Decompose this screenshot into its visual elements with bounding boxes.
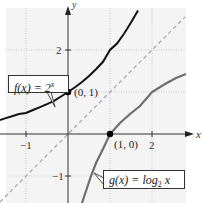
tick-label-x-neg1: −1 (20, 139, 32, 151)
tick-label-x-2: 2 (149, 139, 155, 151)
axis-label-x: x (195, 128, 201, 140)
x-axis-arrow-icon (185, 131, 194, 137)
label-f-superscript: x (51, 80, 55, 89)
point-label-0-1: (0, 1) (74, 86, 98, 98)
point-1-0 (107, 131, 113, 137)
label-f-main: f(x) = 2 (14, 81, 51, 95)
label-g-main: g(x) = log (109, 173, 158, 187)
tick-label-y-neg1: −1 (52, 170, 64, 182)
label-g-tail: x (162, 173, 170, 187)
axis-label-y: y (71, 0, 77, 10)
point-label-1-0: (1, 0) (114, 138, 138, 150)
label-g-function: g(x) = log2 x (103, 170, 185, 189)
tick-label-y-2: 2 (56, 44, 62, 56)
label-f-function: f(x) = 2x (8, 75, 69, 93)
